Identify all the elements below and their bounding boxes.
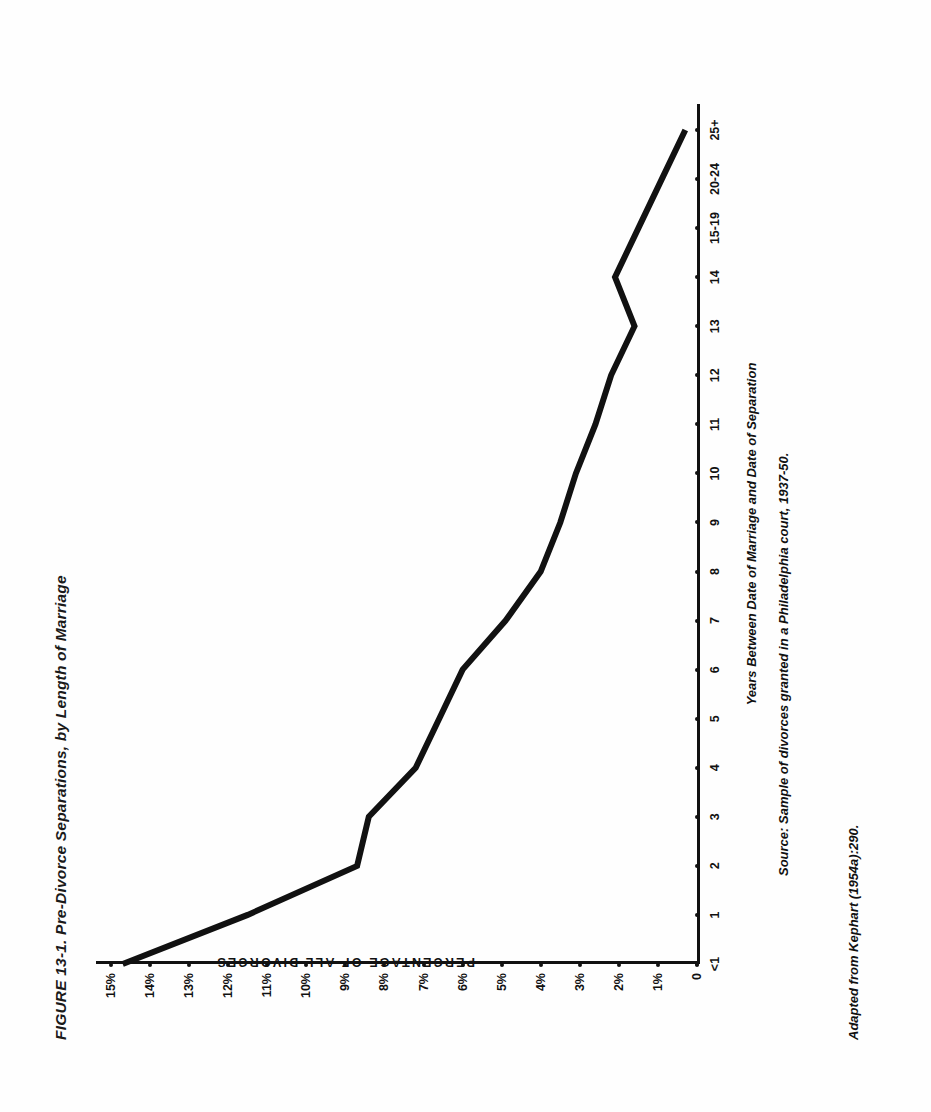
y-tick-label: 8%: [377, 973, 391, 991]
source-note: Source: Sample of divorces granted in a …: [776, 453, 791, 876]
y-tick-label: 11%: [260, 973, 274, 997]
y-tick-label: 4%: [534, 973, 548, 991]
y-tick-label: 7%: [417, 973, 431, 991]
x-tick-label: 3: [708, 813, 722, 820]
x-tick-label: 5: [708, 715, 722, 722]
y-tick-label: 10%: [299, 973, 313, 998]
x-axis-title: Years Between Date of Marriage and Date …: [744, 104, 759, 964]
x-tick-label: 9: [708, 519, 722, 526]
x-tick-label: 25+: [708, 119, 722, 140]
chart-plot-area: PERCENTAGE OF ALL DIVORCES Years Between…: [96, 104, 700, 964]
x-tick-label: 13: [708, 319, 722, 333]
y-tick-label: 1%: [651, 973, 665, 991]
y-tick-label: 0: [690, 973, 704, 980]
x-tick-label: 2: [708, 862, 722, 869]
credit-note: Adapted from Kephart (1954a):290.: [846, 825, 861, 1040]
x-tick-label: 1: [708, 911, 722, 918]
x-tick-label: 10: [708, 466, 722, 480]
x-tick-label: 7: [708, 617, 722, 624]
y-tick-label: 13%: [182, 973, 196, 998]
y-tick-label: 6%: [456, 973, 470, 991]
y-tick-label: 2%: [612, 973, 626, 991]
x-tick-label: 14: [708, 270, 722, 284]
x-tick-label: 20-24: [708, 163, 722, 195]
x-tick-label: 4: [708, 764, 722, 771]
data-series-line: [96, 104, 700, 964]
y-tick-label: 15%: [104, 973, 118, 998]
figure-page: FIGURE 13-1. Pre-Divorce Separations, by…: [0, 0, 931, 1112]
y-tick-label: 12%: [221, 973, 235, 998]
page-title: FIGURE 13-1. Pre-Divorce Separations, by…: [52, 575, 70, 1040]
x-tick-label: 15-19: [708, 212, 722, 244]
y-tick-label: 14%: [143, 973, 157, 998]
x-tick-label: 12: [708, 368, 722, 382]
y-tick-label: 3%: [573, 973, 587, 991]
y-tick-label: 9%: [338, 973, 352, 991]
x-tick-label: 8: [708, 568, 722, 575]
x-tick-label: 6: [708, 666, 722, 673]
x-tick-label: 11: [708, 418, 722, 431]
y-tick-label: 5%: [495, 973, 509, 991]
x-tick-label: <1: [708, 957, 722, 971]
series-polyline: [123, 130, 686, 964]
